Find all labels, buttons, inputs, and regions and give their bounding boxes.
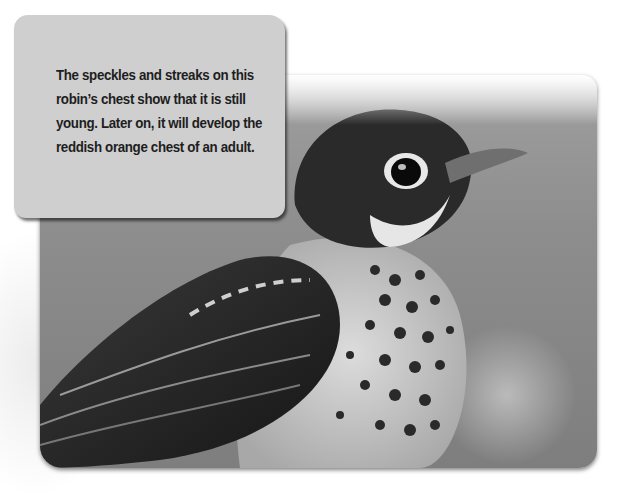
caption-box: The speckles and streaks on this robin’s… [14, 15, 285, 218]
caption-text: The speckles and streaks on this robin’s… [56, 63, 262, 159]
